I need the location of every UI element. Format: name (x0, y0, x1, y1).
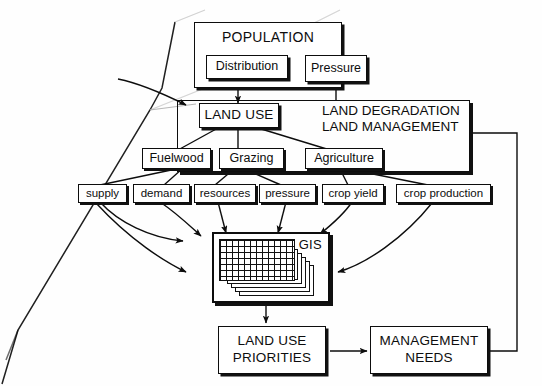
edge-feedback-loop (470, 133, 517, 351)
node-pressure-small[interactable]: pressure (259, 184, 316, 203)
node-pressure[interactable]: Pressure (305, 55, 367, 82)
edge-demand-gis (160, 202, 201, 236)
node-supply[interactable]: supply (78, 184, 127, 203)
gis-label: GIS (299, 237, 322, 252)
outer-frame-label: LAND DEGRADATION LAND MANAGEMENT (322, 103, 460, 135)
gis-panel[interactable]: GIS (212, 232, 330, 303)
management-needs-line1: MANAGEMENT (380, 333, 479, 350)
land-use-priorities-line1: LAND USE (237, 333, 306, 350)
node-distribution[interactable]: Distribution (206, 55, 288, 79)
edge-resources-gis (218, 202, 226, 233)
node-land-use[interactable]: LAND USE (199, 103, 279, 128)
edge-external-landuse (118, 79, 186, 105)
node-agriculture[interactable]: Agriculture (305, 148, 383, 169)
node-crop-yield[interactable]: crop yield (322, 184, 384, 203)
node-land-use-priorities[interactable]: LAND USE PRIORITIES (218, 326, 326, 374)
node-management-needs[interactable]: MANAGEMENT NEEDS (370, 326, 488, 374)
node-crop-production[interactable]: crop production (396, 184, 491, 203)
management-needs-line2: NEEDS (405, 350, 453, 367)
edge-fuelwood-supply (100, 169, 176, 185)
edge-pressure-gis (278, 202, 286, 233)
edge-cropproduction-gis (338, 203, 432, 272)
edge-cropyield-gis (320, 202, 352, 234)
edge-supply-gis-lower (96, 203, 186, 272)
edge-supply-gis (100, 202, 183, 241)
gis-layer-sheet-top (219, 239, 295, 281)
node-resources[interactable]: resources (194, 184, 256, 203)
node-grazing[interactable]: Grazing (219, 148, 284, 169)
diagram-canvas: LAND DEGRADATION LAND MANAGEMENT POPULAT… (0, 0, 542, 386)
node-fuelwood[interactable]: Fuelwood (142, 148, 211, 169)
node-demand[interactable]: demand (133, 184, 190, 203)
land-use-priorities-line2: PRIORITIES (233, 350, 312, 367)
